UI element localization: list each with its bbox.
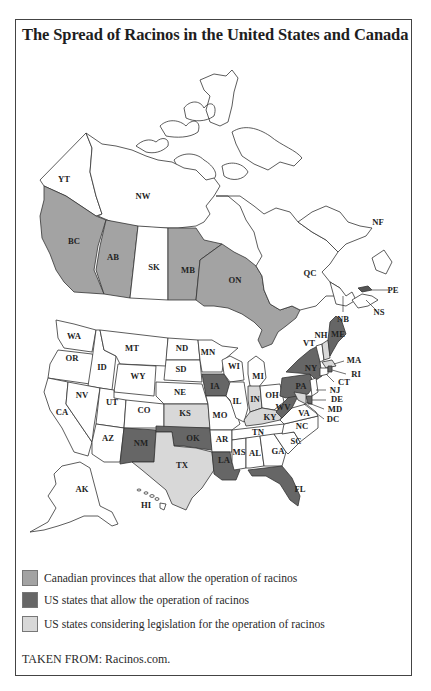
- legend-item-us-considering: US states considering legislation for th…: [22, 616, 325, 632]
- label-on: ON: [229, 275, 243, 285]
- label-ma: MA: [347, 355, 362, 365]
- label-ga: GA: [272, 446, 286, 456]
- north-america-map: YT NW BC AB SK MB ON QC NF NB PE NS WA O…: [0, 0, 431, 691]
- label-wv: WV: [276, 402, 292, 412]
- label-de: DE: [331, 394, 343, 404]
- legend-label: Canadian provinces that allow the operat…: [44, 572, 297, 585]
- label-ne: NE: [174, 387, 186, 397]
- label-ms: MS: [233, 447, 246, 457]
- label-id: ID: [97, 362, 107, 372]
- source-credit: TAKEN FROM: Racinos.com.: [22, 652, 170, 667]
- label-nb: NB: [337, 314, 349, 324]
- region-nf-island: [372, 250, 392, 274]
- legend-item-us-allow: US states that allow the operation of ra…: [22, 592, 249, 608]
- region-ut: [96, 388, 126, 428]
- label-wa: WA: [67, 331, 82, 341]
- label-bc: BC: [68, 236, 80, 246]
- label-la: LA: [218, 455, 231, 465]
- label-ri: RI: [351, 369, 361, 379]
- label-nw: NW: [136, 191, 151, 201]
- label-wy: WY: [131, 371, 147, 381]
- label-hi: HI: [141, 500, 152, 510]
- label-nm: NM: [134, 438, 148, 448]
- label-nv: NV: [76, 390, 89, 400]
- label-md: MD: [328, 404, 342, 414]
- label-ab: AB: [107, 252, 119, 262]
- label-tn: TN: [252, 427, 265, 437]
- region-ak: [30, 462, 118, 532]
- label-ar: AR: [216, 434, 229, 444]
- swatch-us-allow: [22, 592, 38, 608]
- label-qc: QC: [304, 268, 317, 278]
- label-sc: SC: [291, 436, 302, 446]
- label-va: VA: [298, 408, 310, 418]
- region-nw: [86, 133, 220, 228]
- label-in: IN: [250, 394, 260, 404]
- region-pe: [358, 286, 372, 292]
- label-sk: SK: [148, 262, 160, 272]
- label-pa: PA: [296, 381, 308, 391]
- label-nc: NC: [296, 421, 308, 431]
- region-fl: [248, 466, 300, 506]
- label-or: OR: [66, 353, 80, 363]
- label-mt: MT: [125, 343, 139, 353]
- label-me: ME: [331, 329, 345, 339]
- label-il: IL: [232, 396, 241, 406]
- label-ny: NY: [305, 363, 318, 373]
- label-ky: KY: [264, 412, 278, 422]
- label-mn: MN: [201, 347, 216, 357]
- label-mo: MO: [213, 410, 228, 420]
- label-ok: OK: [186, 433, 200, 443]
- label-sd: SD: [176, 364, 187, 374]
- region-ns: [352, 294, 378, 308]
- swatch-us-considering: [22, 616, 38, 632]
- swatch-canada-allow: [22, 570, 38, 586]
- label-vt: VT: [303, 338, 315, 348]
- label-pe: PE: [388, 285, 399, 295]
- region-az: [92, 424, 124, 462]
- label-mi: MI: [252, 371, 264, 381]
- legend-label: US states considering legislation for th…: [44, 618, 325, 631]
- label-mb: MB: [181, 265, 195, 275]
- label-nf: NF: [372, 217, 383, 227]
- label-yt: YT: [58, 174, 70, 184]
- label-az: AZ: [102, 433, 114, 443]
- region-nj: [310, 378, 318, 396]
- legend-item-canada-allow: Canadian provinces that allow the operat…: [22, 570, 297, 586]
- label-nd: ND: [176, 343, 188, 353]
- label-wi: WI: [228, 361, 241, 371]
- label-ia: IA: [210, 381, 220, 391]
- label-ks: KS: [179, 408, 191, 418]
- label-ns: NS: [374, 307, 385, 317]
- legend-label: US states that allow the operation of ra…: [44, 594, 249, 607]
- label-fl: FL: [295, 484, 306, 494]
- label-al: AL: [249, 448, 261, 458]
- label-oh: OH: [265, 390, 279, 400]
- label-dc: DC: [327, 414, 339, 424]
- label-ut: UT: [106, 397, 118, 407]
- region-ri: [328, 366, 332, 372]
- label-nh: NH: [315, 330, 328, 340]
- label-tx: TX: [176, 460, 189, 470]
- label-co: CO: [138, 405, 151, 415]
- label-ak: AK: [76, 484, 89, 494]
- label-ca: CA: [56, 407, 69, 417]
